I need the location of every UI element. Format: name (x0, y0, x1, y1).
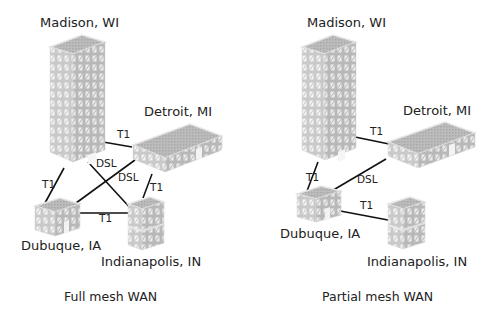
link-label-madison-dubuque: T1 (42, 178, 55, 190)
link-madison-indianapolis (88, 162, 133, 211)
link-label-detroit-indianapolis: T1 (150, 181, 163, 193)
indianapolis-building-icon (128, 197, 164, 250)
link-madison-detroit (355, 137, 389, 144)
indianapolis-building-icon (388, 197, 425, 249)
site-label-dubuque: Dubuque, IA (21, 238, 101, 253)
madison-building-icon (302, 35, 356, 162)
link-dubuque-indianapolis (335, 210, 388, 220)
full-mesh-diagram: Madison, WI Detroit, MI Dubuque, IA Indi… (0, 0, 245, 314)
link-label-madison-detroit: T1 (370, 125, 383, 137)
detroit-building-icon (133, 124, 222, 172)
link-label-madison-indianapolis: DSL (96, 157, 117, 169)
link-madison-detroit (103, 142, 132, 147)
partial-mesh-diagram: Madison, WI Detroit, MI Dubuque, IA Indi… (245, 0, 489, 314)
site-label-madison: Madison, WI (40, 15, 119, 30)
link-label-dubuque-indianapolis: T1 (99, 212, 112, 224)
dubuque-building-icon (35, 198, 80, 236)
site-label-detroit: Detroit, MI (403, 103, 471, 118)
link-label-dubuque-indianapolis: T1 (360, 199, 373, 211)
caption-partial-mesh: Partial mesh WAN (322, 289, 433, 304)
link-label-detroit-dubuque: DSL (357, 173, 378, 185)
dubuque-building-icon (297, 186, 341, 222)
link-label-madison-detroit: T1 (117, 128, 130, 140)
link-label-detroit-dubuque: DSL (118, 171, 139, 183)
site-label-indianapolis: Indianapolis, IN (101, 254, 201, 269)
site-label-madison: Madison, WI (307, 15, 386, 30)
link-label-madison-dubuque: T1 (306, 171, 319, 183)
site-label-indianapolis: Indianapolis, IN (367, 254, 467, 269)
detroit-building-icon (388, 122, 475, 168)
site-label-dubuque: Dubuque, IA (280, 226, 360, 241)
site-label-detroit: Detroit, MI (144, 104, 212, 119)
caption-full-mesh: Full mesh WAN (64, 289, 157, 304)
madison-building-icon (50, 35, 105, 165)
